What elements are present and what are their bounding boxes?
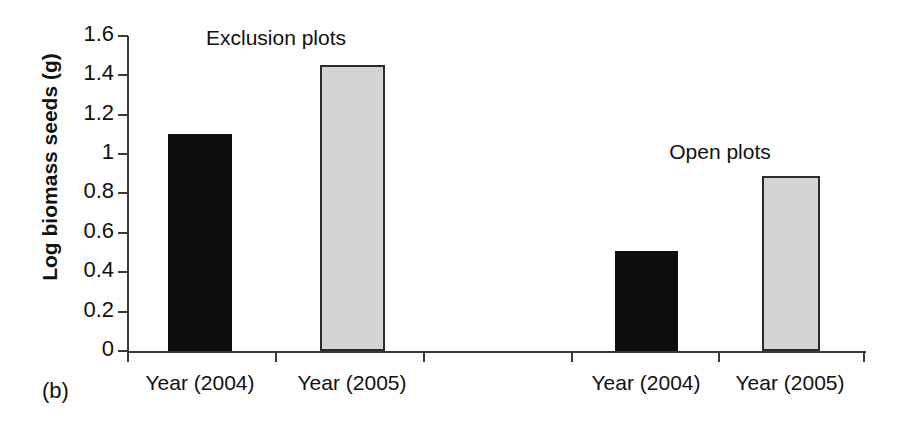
x-axis-tick [571,351,573,362]
x-axis-tick [275,351,277,362]
y-axis-tick-labels: 00.20.40.60.811.21.41.6 [38,0,114,425]
x-axis-tick [127,351,129,362]
x-axis-tick [863,351,865,362]
y-axis-tick [118,192,128,194]
y-axis-tick [118,114,128,116]
group-title: Open plots [610,140,830,164]
x-axis-line [127,351,866,353]
y-axis-tick [118,311,128,313]
y-axis-tick-label: 0.8 [44,180,114,202]
y-axis-tick-label: 1.6 [44,23,114,45]
bar [615,251,678,351]
group-title: Exclusion plots [166,26,386,50]
y-axis-tick-label: 0.6 [44,220,114,242]
y-axis-tick [118,35,128,37]
y-axis-tick-label: 0.2 [44,299,114,321]
y-axis-tick-label: 1.4 [44,62,114,84]
y-axis-tick-label: 0.4 [44,259,114,281]
y-axis-tick [118,232,128,234]
x-axis-tick [718,351,720,362]
x-axis-tick-label: Year (2005) [262,371,442,395]
bar [320,65,385,351]
y-axis-tick [118,74,128,76]
x-axis-tick-label: Year (2005) [700,371,880,395]
y-axis-tick-label: 0 [44,338,114,360]
y-axis-tick [118,153,128,155]
bar [762,176,820,351]
y-axis-tick-label: 1.2 [44,102,114,124]
figure-panel-b: Log biomass seeds (g) 00.20.40.60.811.21… [0,0,909,425]
y-axis-tick [118,271,128,273]
y-axis-tick-label: 1 [44,141,114,163]
x-axis-tick [423,351,425,362]
panel-label: (b) [42,378,69,404]
bar [168,134,232,351]
